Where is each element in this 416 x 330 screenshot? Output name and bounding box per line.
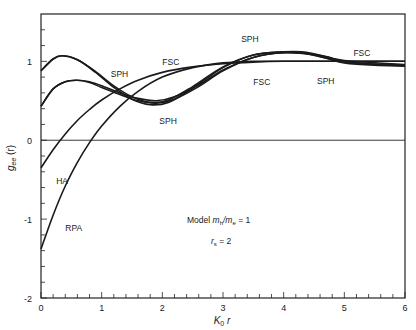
curve-label: FSC bbox=[353, 48, 370, 58]
curve-label: SPH bbox=[241, 34, 258, 44]
svg-text:Model mh/me = 1: Model mh/me = 1 bbox=[187, 215, 250, 226]
y-tick-label: 0 bbox=[27, 136, 32, 146]
curve-label: SPH bbox=[317, 76, 334, 86]
chart-container: 0123456-2-101 FSCSPHSPHSPHFSCFSCSPHHARPA… bbox=[0, 0, 416, 330]
x-tick-label: 1 bbox=[99, 303, 104, 313]
y-tick-label: 1 bbox=[27, 57, 32, 67]
curve-label: FSC bbox=[162, 57, 179, 67]
curve-sph-upper- bbox=[41, 52, 405, 105]
curve-ha bbox=[41, 61, 405, 168]
svg-text:gee (r): gee (r) bbox=[5, 145, 17, 171]
x-axis-label: K0 r bbox=[214, 315, 231, 327]
plot-frame bbox=[41, 14, 405, 298]
curve-label: RPA bbox=[65, 223, 82, 233]
curve-label: HA bbox=[56, 176, 68, 186]
y-tick-label: -1 bbox=[24, 215, 32, 225]
pair-correlation-plot: 0123456-2-101 FSCSPHSPHSPHFSCFSCSPHHARPA… bbox=[0, 0, 416, 330]
x-tick-label: 6 bbox=[402, 303, 407, 313]
y-tick-label: -2 bbox=[24, 294, 32, 304]
x-tick-label: 3 bbox=[220, 303, 225, 313]
axes: 0123456-2-101 bbox=[24, 14, 408, 313]
curve-fsc-upper- bbox=[41, 51, 405, 102]
x-tick-label: 5 bbox=[342, 303, 347, 313]
x-tick-label: 0 bbox=[38, 303, 43, 313]
curve-label: FSC bbox=[253, 77, 270, 87]
model-annotation: Model mh/me = 1 rs = 2 bbox=[187, 215, 250, 247]
svg-text:K0 r: K0 r bbox=[214, 315, 231, 327]
y-axis-label: gee (r) bbox=[5, 145, 17, 171]
curve-label: SPH bbox=[111, 69, 128, 79]
x-tick-label: 4 bbox=[281, 303, 286, 313]
svg-text:rs = 2: rs = 2 bbox=[211, 236, 232, 247]
curve-label: SPH bbox=[159, 116, 176, 126]
x-tick-label: 2 bbox=[160, 303, 165, 313]
